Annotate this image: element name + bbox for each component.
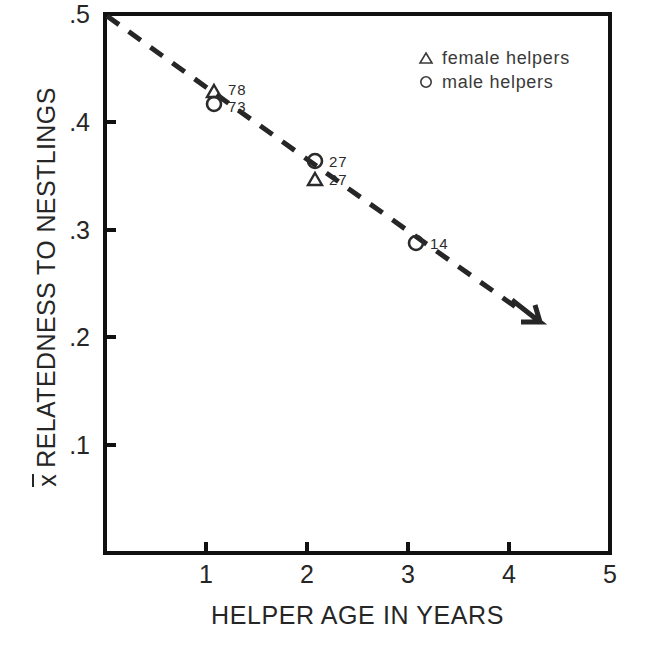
data-marker-female-age1 [207,85,221,97]
plot-area [0,0,656,651]
legend-item-female-helpers: female helpers [416,47,570,69]
relatedness-vs-helper-age-chart: xRELATEDNESS TO NESTLINGS .5 .4 .3 .2 .1… [0,0,656,651]
data-marker-male-age1 [207,97,221,111]
point-label-male-age2: 27 [329,154,347,169]
legend-label-male-helpers: male helpers [442,72,553,93]
legend-label-female-helpers: female helpers [442,48,570,69]
point-label-male-age3: 14 [430,236,448,251]
circle-marker-icon [416,72,436,92]
legend-item-male-helpers: male helpers [416,71,570,93]
legend: female helpers male helpers [416,47,570,95]
point-label-male-age1: 73 [228,99,246,114]
point-label-female-age2: 27 [329,172,347,187]
data-marker-female-age2 [308,173,322,185]
trend-arrowhead-icon [512,300,540,322]
triangle-marker-icon [416,48,436,68]
point-label-female-age1: 78 [228,82,246,97]
